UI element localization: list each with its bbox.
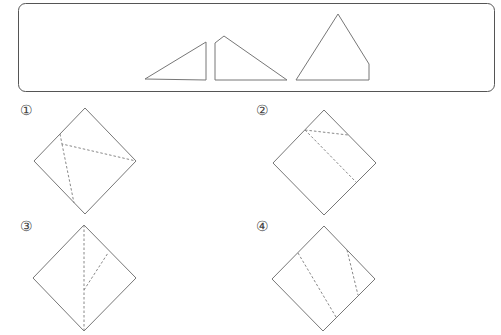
figure-canvas: [0, 0, 501, 335]
options-group: [33, 108, 376, 331]
pentagon-piece: [296, 14, 369, 80]
folded-square: [272, 226, 375, 331]
fold-line: [60, 134, 136, 161]
fold-line: [298, 253, 336, 317]
quadrilateral-piece: [215, 36, 287, 80]
small-right-triangle: [145, 42, 206, 80]
folded-square: [273, 110, 376, 215]
option-4[interactable]: [272, 226, 375, 331]
fold-line: [62, 144, 74, 203]
pieces-box: [19, 4, 495, 92]
fold-line: [305, 130, 356, 182]
option-label-1: ①: [20, 102, 33, 118]
folded-square: [34, 108, 136, 214]
option-1[interactable]: [34, 108, 136, 214]
pieces-group: [145, 14, 369, 80]
fold-line: [305, 130, 348, 135]
fold-line: [84, 253, 108, 290]
option-label-3: ③: [20, 218, 33, 234]
option-label-4: ④: [256, 218, 269, 234]
option-2[interactable]: [273, 110, 376, 215]
option-label-2: ②: [256, 102, 269, 118]
fold-line: [347, 250, 358, 295]
option-3[interactable]: [33, 225, 136, 331]
